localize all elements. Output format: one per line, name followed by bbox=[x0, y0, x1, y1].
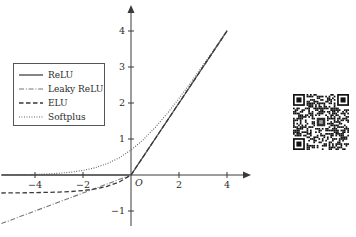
legend-item-softplus: Softplus bbox=[14, 110, 104, 124]
x-tick-label: −4 bbox=[28, 179, 42, 190]
y-tick-label: 2 bbox=[119, 97, 125, 108]
legend-label-elu: ELU bbox=[48, 98, 68, 108]
legend-sample-dashed bbox=[18, 98, 44, 108]
y-tick-label: 1 bbox=[119, 133, 125, 144]
activation-functions-figure: −4−224 −11234 O ReLU Leaky ReLU bbox=[0, 0, 356, 237]
y-axis-arrow-icon bbox=[128, 5, 135, 13]
series-line-leaky-relu bbox=[1, 31, 227, 224]
series-group bbox=[1, 30, 227, 223]
qr-code[interactable] bbox=[293, 94, 349, 150]
x-tick-label: −2 bbox=[76, 179, 90, 190]
x-tick-label: 4 bbox=[224, 179, 230, 190]
legend-sample-dashdot bbox=[18, 84, 44, 94]
legend-label-softplus: Softplus bbox=[48, 112, 86, 122]
x-axis-arrow-icon bbox=[243, 172, 251, 179]
legend-sample-dotted bbox=[18, 112, 44, 122]
legend-item-leaky-relu: Leaky ReLU bbox=[14, 82, 104, 96]
caption-strip bbox=[0, 228, 356, 237]
legend-sample-solid bbox=[18, 70, 44, 80]
legend-label-relu: ReLU bbox=[48, 70, 73, 80]
y-tick-label: 3 bbox=[119, 61, 125, 72]
origin-label: O bbox=[135, 177, 143, 188]
legend-item-relu: ReLU bbox=[14, 68, 104, 82]
qr-code-image bbox=[293, 94, 349, 150]
x-tick-label: 2 bbox=[176, 179, 182, 190]
legend-label-leaky-relu: Leaky ReLU bbox=[48, 84, 103, 94]
legend: ReLU Leaky ReLU ELU Sof bbox=[13, 63, 105, 126]
y-tick-label: −1 bbox=[111, 205, 125, 216]
legend-item-elu: ELU bbox=[14, 96, 104, 110]
y-tick-label: 4 bbox=[119, 25, 125, 36]
